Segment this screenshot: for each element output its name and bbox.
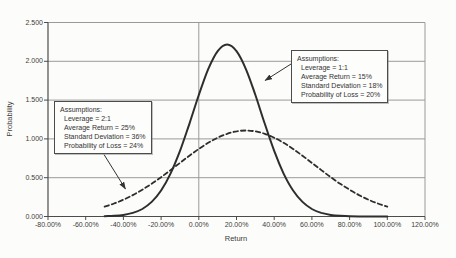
x-tick-label: 120.00% <box>411 221 439 229</box>
assumptions-box-leverage-1-1: Assumptions: Leverage = 1:1 Average Retu… <box>291 50 388 103</box>
arrow-to-dashed-curve <box>104 155 126 190</box>
assumptions-title: Assumptions: <box>60 105 147 114</box>
x-tick-label: 20.00% <box>225 221 249 229</box>
assumption-average-return: Average Return = 15% <box>297 72 383 81</box>
y-tick-label: 0.500 <box>0 174 43 182</box>
x-tick-label: -80.00% <box>35 221 61 229</box>
x-tick-label: 0.00% <box>189 221 209 229</box>
assumption-leverage: Leverage = 2:1 <box>60 114 147 123</box>
y-tick-label: 2.500 <box>0 19 43 27</box>
x-tick-label: -40.00% <box>110 221 136 229</box>
y-tick-label: 0.000 <box>0 213 43 221</box>
assumptions-title: Assumptions: <box>297 54 383 63</box>
x-tick-label: 100.00% <box>373 221 401 229</box>
assumption-standard-deviation: Standard Deviation = 18% <box>297 81 383 90</box>
assumption-standard-deviation: Standard Deviation = 36% <box>60 132 147 141</box>
y-axis-title: Probability <box>5 101 14 136</box>
assumption-probability-of-loss: Probability of Loss = 24% <box>60 141 147 150</box>
x-tick-label: -60.00% <box>73 221 99 229</box>
x-tick-label: 60.00% <box>300 221 324 229</box>
assumption-leverage: Leverage = 1:1 <box>297 63 383 72</box>
assumption-average-return: Average Return = 25% <box>60 123 147 132</box>
x-tick-label: 40.00% <box>262 221 286 229</box>
assumptions-box-leverage-2-1: Assumptions: Leverage = 2:1 Average Retu… <box>54 101 152 154</box>
x-tick-label: -20.00% <box>148 221 174 229</box>
probability-distribution-chart: 0.0000.5001.0001.5002.0002.500 -80.00%-6… <box>0 0 456 258</box>
assumption-probability-of-loss: Probability of Loss = 20% <box>297 90 383 99</box>
x-tick-label: 80.00% <box>338 221 362 229</box>
y-tick-label: 2.000 <box>0 57 43 65</box>
arrow-to-solid-curve <box>265 64 291 81</box>
x-axis-title: Return <box>225 234 248 243</box>
